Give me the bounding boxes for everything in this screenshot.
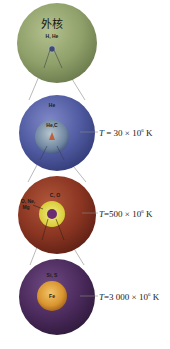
sphere-silicon-stage: [19, 259, 98, 335]
c-o-shell-label: C, O: [50, 193, 60, 198]
fe-core-label: Fe: [49, 294, 55, 299]
outer-core-title: 外核: [41, 19, 63, 30]
stellar-shell-diagram: 外核 H, He He He,C T = 30 × 106 K C, O O, …: [0, 0, 170, 349]
temperature-label-500: T=500 × 106 K: [99, 209, 152, 219]
si-s-shell-label: Si, S: [47, 273, 58, 278]
outer-core-elements: H, He: [46, 34, 59, 39]
sphere-outer-core: [17, 3, 97, 83]
helium-shell-label: He: [49, 103, 55, 108]
he-c-core-label: He,C: [46, 123, 57, 128]
sphere-carbon-stage: [18, 176, 98, 254]
temperature-label-3000: T=3 000 × 106 K: [99, 292, 159, 302]
temperature-label-30: T = 30 × 106 K: [99, 128, 152, 138]
sphere-helium-stage: [19, 95, 98, 171]
purple-core: [47, 209, 57, 219]
mg-label: Mg: [22, 205, 29, 210]
